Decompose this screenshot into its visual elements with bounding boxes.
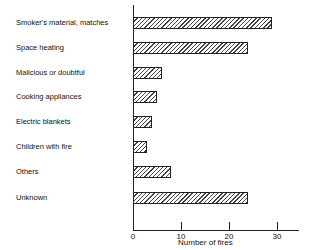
category-label: Space heating <box>16 43 64 52</box>
bar <box>133 141 147 153</box>
x-tick <box>181 222 182 230</box>
bar <box>133 116 152 128</box>
y-axis <box>133 5 134 230</box>
bar <box>133 91 157 103</box>
category-label: Children with fire <box>16 142 72 151</box>
bar <box>133 192 248 204</box>
x-tick-label: 30 <box>273 232 282 241</box>
bar <box>133 17 272 29</box>
category-label: Smoker's material, matches <box>16 18 108 27</box>
bar <box>133 67 162 79</box>
x-tick <box>277 222 278 230</box>
bar <box>133 166 171 178</box>
category-label: Unknown <box>16 193 47 202</box>
category-label: Electric blankets <box>16 117 71 126</box>
category-label: Others <box>16 167 39 176</box>
bar <box>133 42 248 54</box>
x-tick-label: 0 <box>131 232 135 241</box>
x-axis <box>133 230 299 231</box>
category-label: Cooking appliances <box>16 92 81 101</box>
x-tick <box>229 222 230 230</box>
x-axis-label: Number of fires <box>178 238 233 247</box>
category-label: Malicious or doubtful <box>16 68 85 77</box>
